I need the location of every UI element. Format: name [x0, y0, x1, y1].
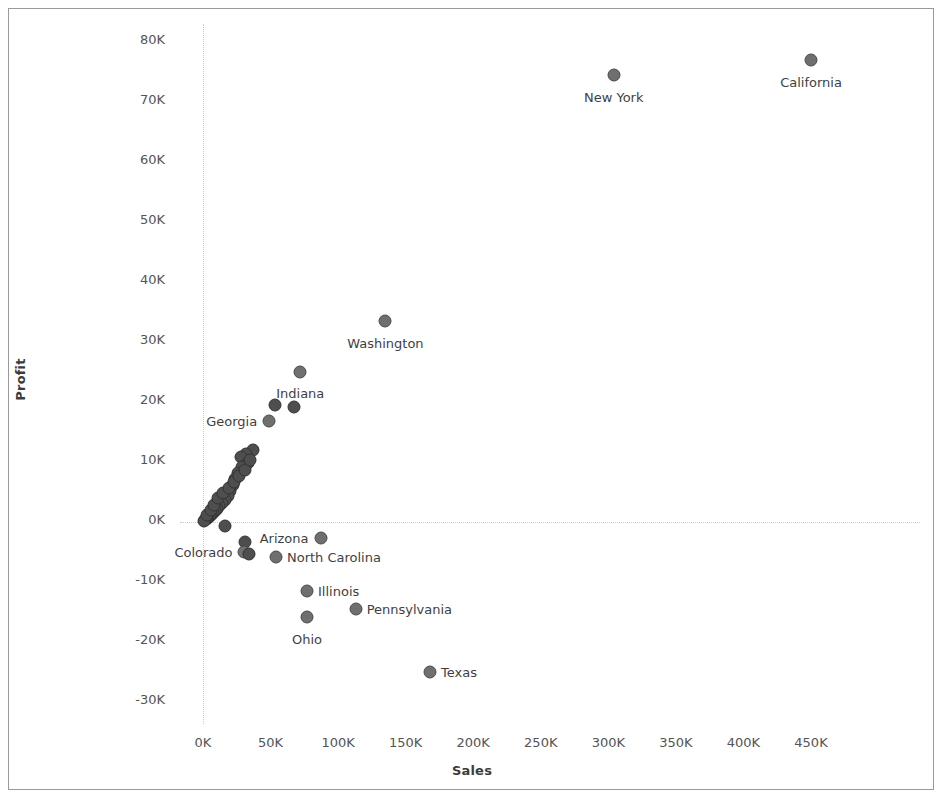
- y-tick-label: 10K: [95, 452, 165, 467]
- data-point-new-york[interactable]: [607, 69, 620, 82]
- y-tick-label: 20K: [95, 392, 165, 407]
- point-label: North Carolina: [287, 550, 381, 565]
- y-tick-label: 40K: [95, 272, 165, 287]
- point-label: Georgia: [206, 414, 257, 429]
- point-label: California: [780, 75, 842, 90]
- scatter-plot: 80K70K60K50K40K30K20K10K0K-10K-20K-30K 0…: [0, 0, 944, 800]
- y-tick-label: -10K: [95, 572, 165, 587]
- data-point-indiana[interactable]: [294, 366, 307, 379]
- y-axis-ticks: 80K70K60K50K40K30K20K10K0K-10K-20K-30K: [95, 0, 165, 800]
- data-point[interactable]: [287, 400, 300, 413]
- data-point[interactable]: [219, 520, 232, 533]
- data-point-north-carolina[interactable]: [269, 551, 282, 564]
- y-tick-label: 60K: [95, 152, 165, 167]
- point-label: Indiana: [276, 386, 324, 401]
- point-label: Arizona: [260, 530, 309, 545]
- point-label: Ohio: [292, 631, 322, 646]
- point-label: Washington: [347, 336, 423, 351]
- data-point-texas[interactable]: [423, 666, 436, 679]
- x-axis-label: Sales: [0, 763, 944, 778]
- data-point-arizona[interactable]: [314, 531, 327, 544]
- y-axis-label: Profit: [13, 320, 28, 440]
- point-label: Illinois: [318, 584, 359, 599]
- y-tick-label: 50K: [95, 212, 165, 227]
- data-point-georgia[interactable]: [263, 415, 276, 428]
- point-label: Colorado: [174, 545, 232, 560]
- data-point-california[interactable]: [805, 54, 818, 67]
- zero-reference-line-vertical: [203, 24, 205, 724]
- y-tick-label: 30K: [95, 332, 165, 347]
- y-tick-label: 70K: [95, 92, 165, 107]
- data-point[interactable]: [268, 399, 281, 412]
- point-label: Pennsylvania: [367, 602, 452, 617]
- point-label: New York: [584, 90, 644, 105]
- y-tick-label: 80K: [95, 32, 165, 47]
- data-point-pennsylvania[interactable]: [349, 603, 362, 616]
- data-point-illinois[interactable]: [301, 585, 314, 598]
- y-tick-label: -30K: [95, 692, 165, 707]
- point-label: Texas: [441, 665, 477, 680]
- x-axis-ticks: 0K50K100K150K200K250K300K350K400K450K: [0, 735, 944, 759]
- data-point[interactable]: [244, 454, 257, 467]
- data-point-washington[interactable]: [379, 315, 392, 328]
- data-point-ohio[interactable]: [301, 610, 314, 623]
- y-tick-label: 0K: [95, 512, 165, 527]
- zero-reference-line-horizontal: [180, 522, 920, 524]
- data-point[interactable]: [242, 548, 255, 561]
- x-tick-label: 450K: [771, 735, 851, 750]
- y-tick-label: -20K: [95, 632, 165, 647]
